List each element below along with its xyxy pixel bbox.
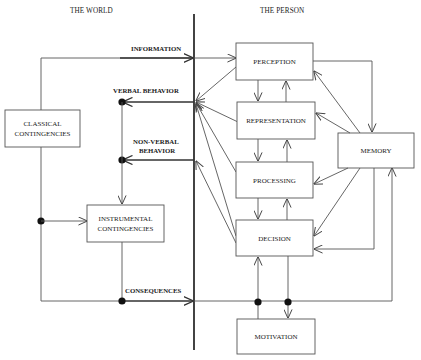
memory-box: MEMORY	[338, 133, 414, 168]
representation-label: REPRESENTATION	[246, 117, 306, 125]
decision-to-nonverbal-arrow	[196, 161, 236, 243]
consequences-node	[118, 297, 125, 304]
representation-to-verbal-arrow	[196, 102, 238, 122]
decision-box: DECISION	[236, 220, 313, 256]
instrumental-label-1: INSTRUMENTAL	[99, 215, 153, 223]
motivation-consequence-node	[254, 298, 261, 305]
non-verbal-behavior-label-2: BEHAVIOR	[139, 147, 175, 154]
decision-consequence-node	[284, 298, 291, 305]
processing-label: PROCESSING	[253, 177, 296, 185]
motivation-label: MOTIVATION	[254, 333, 297, 341]
processing-to-verbal-arrow	[196, 103, 236, 172]
instrumental-label-2: CONTINGENCIES	[98, 225, 154, 233]
information-label: INFORMATION	[131, 45, 181, 52]
section-label-world: THE WORLD	[70, 7, 113, 15]
non-verbal-behavior-label-1: NON-VERBAL	[133, 138, 179, 145]
instrumental-contingencies-box: INSTRUMENTAL CONTINGENCIES	[87, 205, 164, 242]
consequences-label: CONSEQUENCES	[125, 287, 181, 294]
perception-box: PERCEPTION	[236, 43, 313, 80]
memory-to-perception-arrow	[314, 71, 360, 133]
verbal-behavior-label: VERBAL BEHAVIOR	[113, 87, 179, 94]
decision-label: DECISION	[258, 235, 291, 243]
perception-label: PERCEPTION	[253, 58, 295, 66]
memory-to-decision-arrow	[314, 168, 360, 236]
representation-box: REPRESENTATION	[237, 102, 315, 139]
perception-to-memory-arrow	[313, 61, 372, 132]
classical-label-2: CONTINGENCIES	[15, 130, 71, 138]
classical-label-1: CLASSICAL	[23, 120, 61, 128]
world-person-diagram: THE WORLD THE PERSON INFORMATION VERBAL …	[0, 0, 421, 360]
memory-to-representation-arrow	[316, 113, 350, 133]
processing-box: PROCESSING	[236, 162, 313, 198]
memory-to-processing-arrow	[314, 168, 348, 184]
classical-contingencies-box: CLASSICAL CONTINGENCIES	[5, 110, 80, 147]
decision-to-verbal-arrow	[196, 104, 236, 236]
motivation-box: MOTIVATION	[237, 319, 315, 354]
perception-to-verbal-arrow	[196, 67, 236, 101]
memory-label: MEMORY	[360, 147, 391, 155]
section-label-person: THE PERSON	[260, 7, 305, 15]
